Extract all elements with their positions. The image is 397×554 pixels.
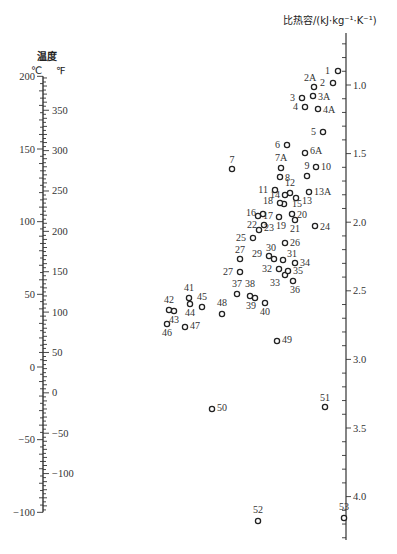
point-marker-icon [299, 95, 304, 100]
point-label: 24 [320, 221, 330, 232]
point-label: 46 [162, 327, 172, 338]
point-marker-icon [237, 269, 242, 274]
point-marker-icon [276, 266, 281, 271]
data-point-25: 25 [236, 232, 256, 243]
point-label: 37 [232, 278, 242, 289]
point-marker-icon [320, 129, 325, 134]
point-marker-icon [274, 338, 279, 343]
point-label: 44 [185, 307, 195, 318]
point-label: 33 [270, 277, 280, 288]
fahrenheit-tick-label: 200 [52, 226, 68, 237]
data-point-32: 32 [262, 263, 282, 274]
data-point-48: 48 [217, 297, 227, 317]
celsius-tick-label: −100 [13, 507, 35, 518]
point-label: 53 [339, 501, 349, 512]
point-marker-icon [282, 192, 287, 197]
data-point-4: 4 [293, 101, 308, 112]
specific-heat-axis-title: 比热容/(kJ·kg⁻¹·K⁻¹) [283, 14, 377, 26]
point-marker-icon [182, 324, 187, 329]
point-marker-icon [310, 93, 315, 98]
data-point-2A: 2A [304, 72, 317, 90]
point-label: 35 [293, 265, 303, 276]
point-marker-icon [280, 257, 285, 262]
point-label: 20 [297, 209, 307, 220]
data-point-17: 17 [255, 210, 273, 221]
point-marker-icon [262, 300, 267, 305]
point-label: 16 [246, 207, 256, 218]
data-point-33: 33 [270, 272, 288, 288]
point-label: 43 [169, 314, 179, 325]
data-point-53: 53 [339, 501, 349, 521]
point-label: 27 [223, 266, 233, 277]
data-point-26: 26 [282, 237, 300, 248]
point-label: 4 [293, 101, 298, 112]
data-point-51: 51 [320, 392, 330, 410]
celsius-tick-label: 100 [19, 216, 35, 227]
point-label: 7 [230, 154, 235, 165]
point-label: 22 [247, 219, 257, 230]
specific-heat-nomogram: 200150100500−50−100350300250200150100500… [0, 0, 397, 554]
point-label: 25 [236, 232, 246, 243]
fahrenheit-tick-label: 50 [52, 347, 63, 358]
point-marker-icon [341, 515, 346, 520]
point-label: 13 [302, 195, 312, 206]
data-point-23: 23 [256, 222, 274, 233]
specific-heat-tick-label: 2.0 [353, 217, 366, 228]
point-label: 51 [320, 392, 330, 403]
specific-heat-tick-label: 1.0 [353, 80, 366, 91]
point-marker-icon [282, 240, 287, 245]
point-marker-icon [266, 253, 271, 258]
point-label: 9 [305, 160, 310, 171]
point-marker-icon [229, 166, 234, 171]
point-label: 40 [260, 306, 270, 317]
data-point-15: 15 [281, 198, 302, 209]
point-marker-icon [322, 404, 327, 409]
data-point-9: 9 [304, 160, 309, 179]
point-label: 30 [266, 242, 276, 253]
point-label: 26 [290, 237, 300, 248]
fahrenheit-tick-label: 250 [52, 185, 68, 196]
point-label: 3A [318, 91, 331, 102]
data-point-10: 10 [313, 161, 331, 172]
specific-heat-axis: 1.01.52.02.53.03.54.0 [342, 33, 366, 540]
celsius-tick-label: 50 [25, 289, 36, 300]
fahrenheit-tick-label: 0 [52, 387, 57, 398]
data-point-2: 2 [320, 77, 336, 88]
point-label: 18 [263, 195, 273, 206]
data-point-52: 52 [253, 504, 263, 524]
point-marker-icon [330, 80, 335, 85]
point-label: 2A [304, 72, 317, 83]
data-point-45: 45 [197, 291, 207, 310]
point-marker-icon [171, 308, 176, 313]
point-label: 32 [262, 263, 272, 274]
point-marker-icon [166, 307, 171, 312]
data-point-6A: 6A [302, 145, 323, 156]
point-label: 7A [275, 152, 288, 163]
point-label: 17 [263, 210, 273, 221]
data-point-27: 27 [235, 244, 245, 262]
point-marker-icon [237, 256, 242, 261]
data-point-36: 36 [290, 278, 300, 295]
point-marker-icon [292, 217, 297, 222]
point-label: 13A [314, 186, 332, 197]
temperature-axis: 200150100500−50−100350300250200150100500… [13, 71, 73, 518]
point-marker-icon [276, 214, 281, 219]
specific-heat-tick-label: 4.0 [353, 491, 366, 502]
point-marker-icon [302, 150, 307, 155]
point-label: 1 [325, 65, 330, 76]
data-point-47: 47 [182, 320, 200, 331]
data-point-27A: 27 [223, 266, 243, 277]
point-marker-icon [250, 235, 255, 240]
data-point-1: 1 [325, 65, 341, 76]
point-marker-icon [219, 311, 224, 316]
point-label: 49 [282, 334, 292, 345]
point-label: 41 [184, 282, 194, 293]
point-label: 23 [264, 222, 274, 233]
specific-heat-tick-label: 3.5 [353, 423, 366, 434]
point-label: 47 [190, 320, 200, 331]
point-marker-icon [285, 268, 290, 273]
point-label: 42 [164, 294, 174, 305]
data-point-24: 24 [312, 221, 330, 232]
point-label: 5 [311, 126, 316, 137]
celsius-tick-label: −50 [19, 434, 35, 445]
